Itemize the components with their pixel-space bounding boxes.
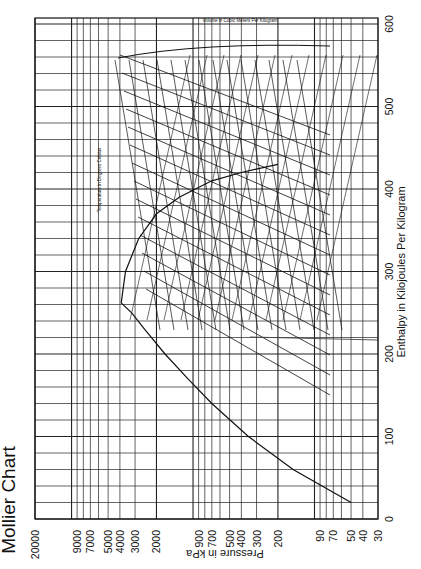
pressure-tick-label: 2000 [150,530,162,554]
chart-curves [115,45,378,502]
pressure-tick-label: 30 [372,530,384,542]
enthalpy-tick-label: 0 [383,516,395,522]
enthalpy-tick-labels: 0100200300400500600 [383,15,395,522]
enthalpy-axis-label: Enthalpy in Kilojoules Per Kilogram [395,186,407,357]
enthalpy-tick-label: 200 [383,345,395,363]
pressure-tick-label: 300 [251,530,263,548]
temperature-annotation: Temperature in Degrees Celsius [97,147,102,212]
saturation-line [121,303,351,503]
saturation-line [121,164,278,303]
enthalpy-tick-label: 100 [383,428,395,446]
pressure-tick-label: 400 [235,530,247,548]
pressure-tick-label: 500 [224,530,236,548]
pressure-tick-label: 40 [357,530,369,542]
pressure-tick-label: 90 [314,530,326,542]
enthalpy-tick-label: 300 [383,263,395,281]
pressure-tick-label: 5000 [102,530,114,554]
pressure-tick-label: 9000 [71,530,83,554]
chart-title: Mollier Chart [0,445,19,553]
pressure-tick-label: 200 [272,530,284,548]
pressure-tick-label: 900 [193,530,205,548]
pressure-tick-label: 7000 [84,530,96,554]
enthalpy-tick-label: 500 [383,98,395,116]
pressure-tick-label: 70 [327,530,339,542]
pressure-tick-label: 20000 [29,530,41,559]
mollier-chart: 2000090007000500040003000200090070050040… [0,0,421,569]
pressure-tick-label: 700 [206,530,218,548]
chart-grid [35,18,378,519]
enthalpy-tick-label: 400 [383,180,395,198]
enthalpy-tick-label: 600 [383,15,395,33]
pressure-tick-label: 4000 [114,530,126,554]
pressure-tick-label: 50 [345,530,357,542]
volume-annotation: Volume in Cubic Meters Per Kilogram [203,18,278,23]
pressure-axis-label: Pressure in kPa [185,548,264,560]
superheat-region [115,45,378,395]
pressure-tick-label: 3000 [129,530,141,554]
